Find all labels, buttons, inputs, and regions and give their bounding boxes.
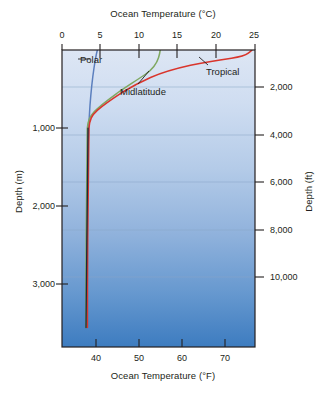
top-tick-label-20: 20 <box>211 30 221 40</box>
bottom-tick-label-60: 60 <box>177 353 187 363</box>
top-axis-ticks <box>62 44 255 50</box>
bottom-tick-label-70: 70 <box>220 353 230 363</box>
left-tick-label-3000: 3,000 <box>11 279 55 289</box>
top-tick-label-0: 0 <box>59 30 64 40</box>
top-axis-title: Ocean Temperature (°C) <box>0 8 326 19</box>
top-tick-label-25: 25 <box>249 30 259 40</box>
left-tick-label-1000: 1,000 <box>11 123 55 133</box>
series-label-tropical: Tropical <box>206 66 239 77</box>
top-tick-label-5: 5 <box>97 30 102 40</box>
series-label-midlatitude: Midlatitude <box>120 86 166 97</box>
right-tick-label-8000: 8,000 <box>270 225 293 235</box>
right-axis-ticks <box>255 87 264 277</box>
left-axis-title: Depth (m) <box>13 152 24 232</box>
top-tick-label-10: 10 <box>134 30 144 40</box>
top-tick-label-15: 15 <box>172 30 182 40</box>
right-tick-label-2000: 2,000 <box>270 82 293 92</box>
right-tick-label-6000: 6,000 <box>270 177 293 187</box>
bottom-axis-title: Ocean Temperature (°F) <box>0 370 326 381</box>
ocean-temperature-depth-chart: Ocean Temperature (°C) Ocean Temperature… <box>0 0 326 395</box>
plot-area <box>0 0 326 395</box>
right-tick-label-4000: 4,000 <box>270 130 293 140</box>
bottom-tick-label-40: 40 <box>91 353 101 363</box>
series-label-polar: Polar <box>80 54 102 65</box>
right-tick-label-10000: 10,000 <box>270 272 298 282</box>
right-axis-title: Depth (ft) <box>303 152 314 232</box>
left-tick-label-2000: 2,000 <box>11 201 55 211</box>
bottom-tick-label-50: 50 <box>134 353 144 363</box>
